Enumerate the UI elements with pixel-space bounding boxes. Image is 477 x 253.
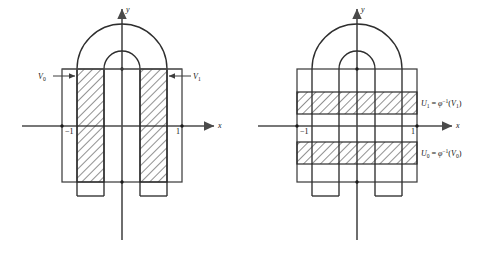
right-label-U1-close: ) (459, 99, 462, 108)
right-tick-dot-neg1 (295, 124, 298, 127)
right-tick-label-neg1: −1 (300, 127, 309, 136)
left-strip-V0 (77, 69, 104, 182)
right-label-U0: U0=φ−1(V0) (421, 148, 462, 159)
right-label-U1-lhs-sub: 1 (427, 103, 430, 109)
left-tick-label-pos1: 1 (176, 127, 180, 136)
right-tick-label-pos1: 1 (411, 127, 415, 136)
right-label-U1: U1=φ−1(V1) (421, 98, 462, 109)
right-x-axis-label: x (455, 121, 460, 130)
right-panel: x y −1 1 U1=φ−1(V1) U0=φ−1(V0) (258, 5, 462, 240)
right-band-U0 (297, 142, 417, 164)
right-axes: x y (258, 5, 460, 240)
left-label-V1-group: V1 (169, 72, 201, 82)
left-tick-dot-pos1 (180, 124, 183, 127)
left-label-V1-sub: 1 (198, 76, 201, 82)
right-origin-dot-bottom (355, 180, 358, 183)
right-label-U0-lhs-sub: 0 (427, 153, 430, 159)
right-y-axis-label: y (360, 5, 365, 14)
right-origin-dot-top (355, 67, 358, 70)
right-label-U0-eq: = (431, 149, 436, 158)
left-tick-label-neg1: −1 (65, 127, 74, 136)
left-label-V1: V1 (193, 72, 201, 82)
left-axes: x y (22, 5, 222, 240)
figure-root: x y −1 1 V0 (0, 0, 477, 253)
left-label-V0-group: V0 (38, 72, 75, 82)
right-label-U0-close: ) (459, 149, 462, 158)
left-origin-dot-bottom (120, 180, 123, 183)
right-tick-dot-pos1 (415, 124, 418, 127)
left-tick-dot-neg1 (60, 124, 63, 127)
right-label-U1-eq: = (431, 99, 436, 108)
right-band-U1 (297, 92, 417, 114)
left-y-axis-label: y (125, 5, 130, 14)
horseshoe-diagram: x y −1 1 V0 (0, 0, 477, 253)
left-panel: x y −1 1 V0 (22, 5, 222, 240)
left-label-V0: V0 (38, 72, 46, 82)
left-strip-V1 (140, 69, 167, 182)
left-label-V0-sub: 0 (43, 76, 46, 82)
left-x-axis-label: x (217, 121, 222, 130)
